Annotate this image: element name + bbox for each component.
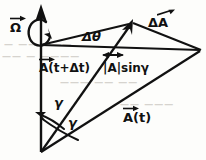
vector-rotation-figure: — —— ——— —— — ———— ——— —— —— —— ———: [0, 0, 206, 160]
A-t-vector-wrap: A(t): [123, 111, 151, 124]
omega-symbol: Ω: [10, 20, 21, 35]
label-A-magnitude-sin-gamma: |A|sinγ: [103, 62, 149, 74]
vector-arrow-icon-delta-A: [157, 9, 175, 17]
edge-vertex-to-tip-t: [41, 45, 200, 50]
omega-vector-wrap: Ω: [10, 21, 21, 34]
delta-A-symbol: ΔA: [148, 15, 168, 30]
A-t-text: A(t): [123, 110, 151, 125]
double-arrow-icon: [102, 52, 124, 58]
label-delta-theta: Δθ: [82, 30, 101, 43]
diagram-canvas: [0, 0, 206, 160]
vector-arrow-icon-A-t: [123, 105, 139, 111]
rotation-axis-group: [35, 4, 47, 152]
A-t-plus-dt-vector-wrap: A(t+Δt): [39, 62, 90, 74]
vector-arrow-icon-omega: [10, 15, 26, 21]
filled-arrowhead-icon: [122, 19, 133, 35]
label-A-t: A(t): [123, 111, 151, 124]
arc-arrow-icon-upper: [35, 112, 64, 129]
vector-arrow-icon-A-t-plus-dt: [39, 56, 55, 62]
A-t-plus-dt-text: A(t+Δt): [39, 61, 90, 75]
label-gamma-upper: γ: [54, 96, 63, 109]
label-delta-A: ΔA: [148, 16, 168, 29]
label-gamma-lower: γ: [68, 116, 77, 129]
delta-A-vector-wrap: ΔA: [148, 16, 168, 29]
label-A-t-plus-dt: A(t+Δt): [39, 62, 90, 74]
label-omega: Ω: [10, 21, 21, 34]
